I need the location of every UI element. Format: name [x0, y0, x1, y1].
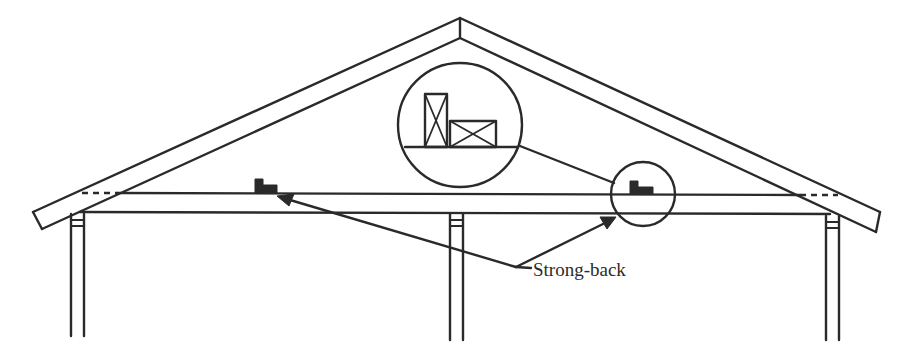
- ceiling-joist: [80, 193, 838, 214]
- callout-leader-line: [520, 146, 614, 183]
- support-posts: [71, 214, 839, 340]
- roof-truss-diagram: Strong-back: [0, 0, 901, 359]
- strong-back-left: [255, 179, 277, 193]
- arrowhead-left-icon: [277, 194, 294, 206]
- detail-magnified-circle: [398, 63, 522, 187]
- right-post: [826, 216, 839, 340]
- center-post: [450, 214, 463, 340]
- strong-back-leaders: [277, 194, 616, 268]
- left-post: [71, 214, 84, 336]
- diagram-drawing: [0, 0, 901, 359]
- strong-back-right: [630, 181, 653, 194]
- strong-back-label: Strong-back: [533, 259, 626, 281]
